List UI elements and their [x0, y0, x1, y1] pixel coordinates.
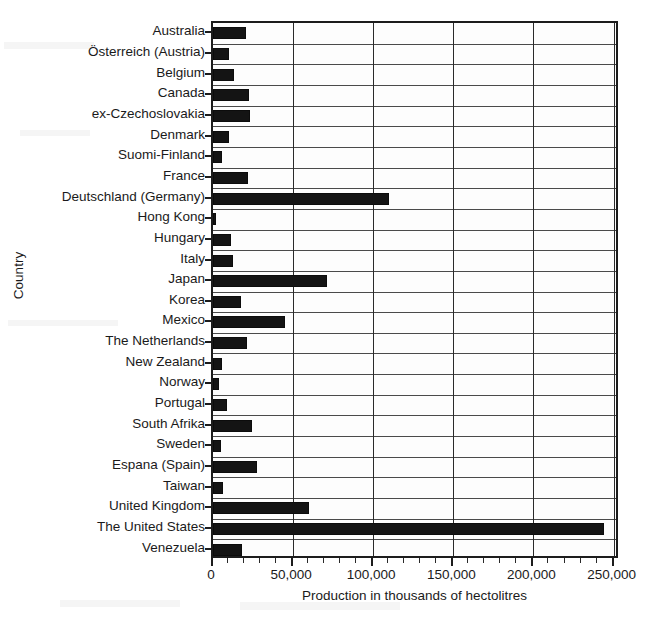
y-axis-tick-label: Deutschland (Germany): [0, 190, 205, 204]
x-axis-minor-tick: [275, 558, 276, 563]
x-axis-tick-label: 250,000: [587, 567, 636, 582]
y-axis-tick-label: Canada: [0, 86, 205, 100]
plot-area: [211, 21, 618, 558]
y-axis-tick-label: France: [0, 169, 205, 183]
bar-canada: [213, 89, 249, 101]
x-axis-minor-tick: [355, 558, 356, 563]
bar-mexico: [213, 316, 285, 328]
x-axis-minor-tick: [323, 558, 324, 563]
bar-australia: [213, 27, 246, 39]
x-axis-minor-tick: [596, 558, 597, 563]
bar-the-netherlands: [213, 337, 247, 349]
bar-the-united-states: [213, 523, 604, 535]
y-axis-tick-label: Korea: [0, 293, 205, 307]
x-axis-minor-tick: [515, 558, 516, 563]
bar-france: [213, 172, 248, 184]
bar-hong-kong: [213, 213, 216, 225]
x-axis-minor-tick: [580, 558, 581, 563]
y-axis-tick-label: Denmark: [0, 128, 205, 142]
y-axis-tick-label: Venezuela: [0, 541, 205, 555]
x-axis-tick-label: 50,000: [270, 567, 311, 582]
bar-korea: [213, 296, 241, 308]
x-axis-minor-tick: [483, 558, 484, 563]
y-axis-tick-label: Sweden: [0, 437, 205, 451]
bar-venezuela: [213, 544, 242, 556]
x-axis-tick-label: 150,000: [427, 567, 476, 582]
x-axis-minor-tick: [339, 558, 340, 563]
x-axis-minor-tick: [467, 558, 468, 563]
x-axis-minor-tick: [259, 558, 260, 563]
bar-new-zealand: [213, 358, 222, 370]
bar-deutschland-germany: [213, 193, 389, 205]
bar-united-kingdom: [213, 502, 309, 514]
x-axis-minor-tick: [227, 558, 228, 563]
x-axis-tick-label: 100,000: [347, 567, 396, 582]
x-axis-major-tick: [451, 558, 453, 566]
bar-ex-czechoslovakia: [213, 110, 250, 122]
x-axis: Production in thousands of hectolitres 0…: [211, 558, 618, 618]
y-axis-tick-label: Espana (Spain): [0, 458, 205, 472]
bar-espana-spain: [213, 461, 257, 473]
y-axis-tick-label: Suomi-Finland: [0, 148, 205, 162]
bar-suomi-finland: [213, 151, 222, 163]
y-axis-tick-label: United Kingdom: [0, 499, 205, 513]
bar-italy: [213, 255, 233, 267]
x-axis-minor-tick: [403, 558, 404, 563]
x-axis-tick-label: 0: [207, 567, 215, 582]
bar-norway: [213, 378, 219, 390]
y-axis-tick-label: Belgium: [0, 66, 205, 80]
bar-series: [213, 23, 616, 556]
x-axis-minor-tick: [564, 558, 565, 563]
y-axis-labels: AustraliaÖsterreich (Austria)BelgiumCana…: [0, 21, 205, 558]
y-axis-tick-label: Australia: [0, 24, 205, 38]
y-axis-tick-label: Hungary: [0, 231, 205, 245]
y-axis-tick-label: Norway: [0, 375, 205, 389]
y-axis-tick-label: Japan: [0, 272, 205, 286]
x-axis-minor-tick: [419, 558, 420, 563]
y-axis-tick-label: New Zealand: [0, 355, 205, 369]
x-axis-minor-tick: [499, 558, 500, 563]
y-axis-tick-label: Hong Kong: [0, 210, 205, 224]
bar-portugal: [213, 399, 227, 411]
scan-artifact: [60, 600, 180, 607]
y-axis-tick-label: Portugal: [0, 396, 205, 410]
x-axis-major-tick: [371, 558, 373, 566]
y-axis-tick-label: Taiwan: [0, 479, 205, 493]
x-axis-minor-tick: [307, 558, 308, 563]
x-axis-minor-tick: [547, 558, 548, 563]
bar-taiwan: [213, 482, 223, 494]
bar-hungary: [213, 234, 231, 246]
bar-chart-figure: AustraliaÖsterreich (Austria)BelgiumCana…: [0, 0, 671, 621]
y-axis-tick-label: The Netherlands: [0, 334, 205, 348]
x-axis-minor-tick: [435, 558, 436, 563]
y-axis-tick-label: Österreich (Austria): [0, 45, 205, 59]
bar-belgium: [213, 69, 234, 81]
bar-japan: [213, 275, 327, 287]
y-axis-tick-label: Italy: [0, 252, 205, 266]
x-axis-minor-tick: [387, 558, 388, 563]
y-axis-title: Country: [11, 236, 26, 316]
x-axis-major-tick: [211, 558, 213, 566]
x-axis-title: Production in thousands of hectolitres: [211, 588, 618, 603]
bar-denmark: [213, 131, 229, 143]
x-axis-minor-tick: [243, 558, 244, 563]
y-axis-tick-label: The United States: [0, 520, 205, 534]
bar-sterreich-austria: [213, 48, 229, 60]
x-axis-major-tick: [612, 558, 614, 566]
y-axis-tick-label: ex-Czechoslovakia: [0, 107, 205, 121]
chart-title: [211, 0, 618, 2]
bar-south-afrika: [213, 420, 252, 432]
x-axis-major-tick: [291, 558, 293, 566]
x-axis-major-tick: [531, 558, 533, 566]
x-axis-tick-label: 200,000: [507, 567, 556, 582]
y-axis-tick-label: Mexico: [0, 313, 205, 327]
y-axis-tick-label: South Afrika: [0, 417, 205, 431]
bar-sweden: [213, 440, 221, 452]
